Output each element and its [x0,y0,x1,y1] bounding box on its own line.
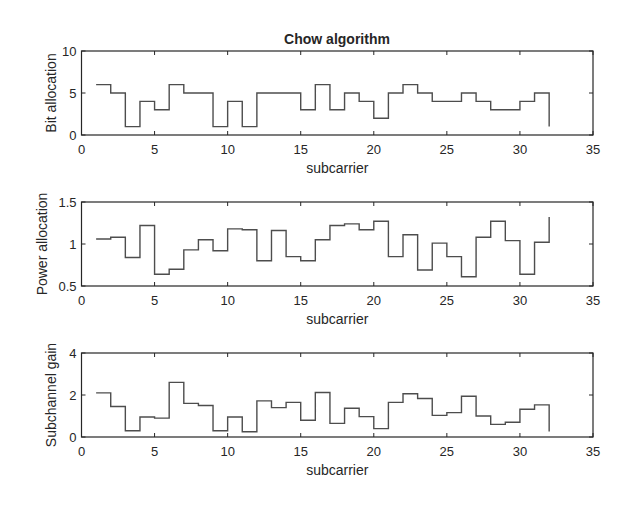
x-tick-label: 25 [440,444,454,459]
figure-canvas: Chow algorithm 051015202530350510subcarr… [0,0,632,507]
x-tick-label: 0 [78,293,85,308]
x-tick-label: 20 [367,142,381,157]
x-tick-label: 5 [151,142,158,157]
x-tick-label: 10 [220,444,234,459]
axes-box [82,202,594,286]
y-tick-label: 1 [69,237,76,252]
x-tick-label: 25 [440,142,454,157]
y-tick-label: 10 [62,44,76,59]
y-tick-label: 0.5 [58,279,76,294]
y-axis-label: Bit allocation [43,53,59,132]
x-tick-label: 35 [586,444,600,459]
x-tick-label: 10 [220,142,234,157]
chart-title: Chow algorithm [284,31,390,47]
y-axis-label: Subchannel gain [43,343,59,447]
axes-box [82,51,594,135]
y-axis-label: Power allocation [34,193,50,296]
y-tick-label: 0 [69,128,76,143]
x-axis-label: subcarrier [306,462,369,478]
subplot-bit-allocation: 051015202530350510subcarrierBit allocati… [43,44,601,176]
y-tick-label: 1.5 [58,195,76,210]
y-tick-label: 4 [69,346,76,361]
subplots: 051015202530350510subcarrierBit allocati… [34,44,601,478]
x-tick-label: 0 [78,444,85,459]
figure: Chow algorithm 051015202530350510subcarr… [0,0,632,507]
x-axis-label: subcarrier [306,311,369,327]
x-tick-label: 0 [78,142,85,157]
x-tick-label: 10 [220,293,234,308]
y-tick-label: 0 [69,430,76,445]
subplot-power-allocation: 051015202530350.511.5subcarrierPower all… [34,193,601,327]
x-tick-label: 15 [293,142,307,157]
x-tick-label: 15 [293,293,307,308]
x-tick-label: 35 [586,142,600,157]
x-tick-label: 30 [513,444,527,459]
y-tick-label: 2 [69,388,76,403]
subplot-subchannel-gain: 05101520253035024subcarrierSubchannel ga… [43,343,601,478]
y-tick-label: 5 [69,86,76,101]
axes-box [82,353,594,437]
x-tick-label: 35 [586,293,600,308]
data-line [96,382,549,431]
x-tick-label: 30 [513,293,527,308]
data-line [96,217,549,277]
x-tick-label: 20 [367,293,381,308]
x-tick-label: 5 [151,293,158,308]
x-tick-label: 5 [151,444,158,459]
x-axis-label: subcarrier [306,160,369,176]
data-line [96,85,549,127]
x-tick-label: 25 [440,293,454,308]
x-tick-label: 20 [367,444,381,459]
x-tick-label: 15 [293,444,307,459]
x-tick-label: 30 [513,142,527,157]
